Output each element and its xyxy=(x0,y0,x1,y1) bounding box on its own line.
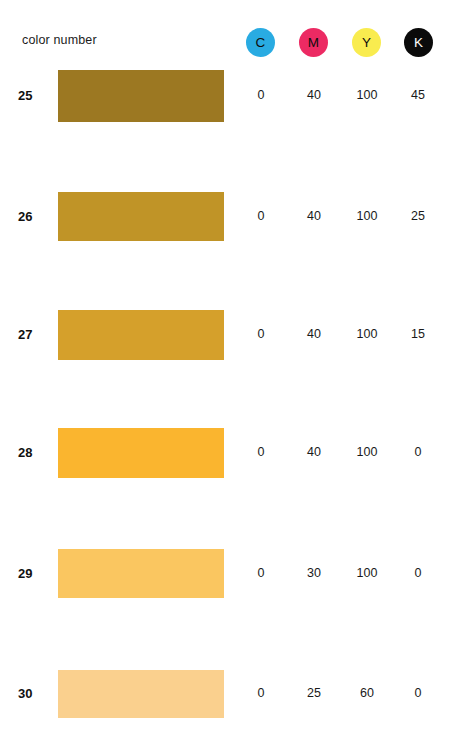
ink-dot-yellow-icon: Y xyxy=(352,28,381,57)
ink-value-m: 40 xyxy=(294,445,334,459)
ink-value-k: 0 xyxy=(398,445,438,459)
row-number-label: 27 xyxy=(18,327,48,342)
color-swatch xyxy=(58,192,224,241)
ink-dot-label: K xyxy=(414,35,423,49)
table-row: 2604010025 xyxy=(0,192,451,241)
ink-value-m: 25 xyxy=(294,686,334,700)
ink-value-m: 30 xyxy=(294,566,334,580)
ink-value-y: 100 xyxy=(347,88,387,102)
table-row: 2504010045 xyxy=(0,70,451,122)
ink-value-y: 100 xyxy=(347,445,387,459)
row-number-label: 28 xyxy=(18,445,48,460)
ink-dot-magenta-icon: M xyxy=(299,28,328,57)
ink-value-m: 40 xyxy=(294,88,334,102)
table-row: 280401000 xyxy=(0,428,451,478)
ink-value-k: 45 xyxy=(398,88,438,102)
chart-header: color number CMYK xyxy=(0,28,451,60)
ink-value-c: 0 xyxy=(241,566,281,580)
color-swatch xyxy=(58,670,224,718)
ink-value-k: 0 xyxy=(398,686,438,700)
ink-dot-label: Y xyxy=(362,35,371,49)
cmyk-swatch-chart: color number CMYK 2504010045260401002527… xyxy=(0,0,451,746)
ink-dot-black-icon: K xyxy=(404,28,433,57)
ink-dot-cyan-icon: C xyxy=(246,28,275,57)
row-number-label: 26 xyxy=(18,209,48,224)
row-number-label: 25 xyxy=(18,88,48,103)
ink-value-m: 40 xyxy=(294,327,334,341)
ink-value-k: 15 xyxy=(398,327,438,341)
color-swatch xyxy=(58,428,224,478)
ink-value-c: 0 xyxy=(241,327,281,341)
ink-dot-label: M xyxy=(308,35,319,49)
ink-value-m: 40 xyxy=(294,209,334,223)
row-number-label: 29 xyxy=(18,566,48,581)
ink-value-y: 100 xyxy=(347,327,387,341)
table-row: 290301000 xyxy=(0,549,451,598)
color-swatch xyxy=(58,70,224,122)
color-swatch xyxy=(58,549,224,598)
page-title: color number xyxy=(22,33,97,47)
color-swatch xyxy=(58,310,224,360)
ink-value-k: 25 xyxy=(398,209,438,223)
ink-value-y: 100 xyxy=(347,566,387,580)
row-number-label: 30 xyxy=(18,686,48,701)
ink-dot-label: C xyxy=(256,35,266,49)
ink-value-c: 0 xyxy=(241,209,281,223)
table-row: 30025600 xyxy=(0,670,451,718)
ink-value-k: 0 xyxy=(398,566,438,580)
ink-value-y: 60 xyxy=(347,686,387,700)
table-row: 2704010015 xyxy=(0,310,451,360)
ink-value-c: 0 xyxy=(241,88,281,102)
ink-value-c: 0 xyxy=(241,445,281,459)
ink-value-c: 0 xyxy=(241,686,281,700)
ink-value-y: 100 xyxy=(347,209,387,223)
